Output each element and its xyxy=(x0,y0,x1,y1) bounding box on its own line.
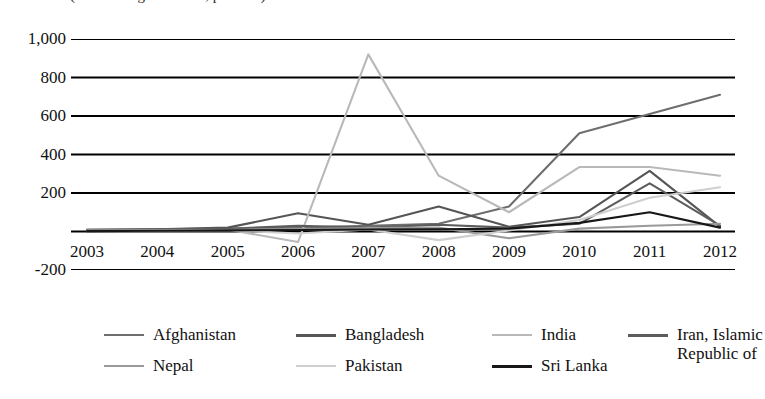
legend-color-swatch xyxy=(296,334,336,337)
legend-label: Sri Lanka xyxy=(541,356,608,375)
chart-title-text: (share in regional total, per cent) xyxy=(70,0,266,4)
x-axis-tick-label: 2009 xyxy=(492,243,526,260)
x-axis-tick-label: 2007 xyxy=(351,243,385,260)
x-axis-tick-label: 2010 xyxy=(562,243,596,260)
legend-item[interactable]: Afghanistan xyxy=(104,325,236,344)
x-axis-tick-label: 2012 xyxy=(703,243,737,260)
x-axis-tick-label: 2008 xyxy=(422,243,456,260)
y-axis-tick-label: 200 xyxy=(41,184,67,201)
x-axis-tick-label: 2003 xyxy=(70,243,104,260)
legend-label: Nepal xyxy=(153,356,194,375)
legend-item[interactable]: Iran, Islamic Republic of xyxy=(628,325,765,363)
legend-label: Iran, Islamic Republic of xyxy=(677,325,765,363)
plot-area xyxy=(71,39,735,270)
chart-title-cropped: (share in regional total, per cent) xyxy=(0,0,765,11)
x-axis-tick-label: 2005 xyxy=(211,243,245,260)
legend-color-swatch xyxy=(492,365,532,368)
series-line xyxy=(87,183,720,230)
legend-color-swatch xyxy=(104,334,144,336)
legend-label: India xyxy=(541,325,576,344)
legend-item[interactable]: Nepal xyxy=(104,356,194,375)
legend-item[interactable]: Bangladesh xyxy=(296,325,424,344)
y-axis-tick-label: 400 xyxy=(41,146,67,163)
series-line xyxy=(87,54,720,242)
series-line xyxy=(87,171,720,230)
x-axis-tick-label: 2011 xyxy=(633,243,666,260)
chart-container: (share in regional total, per cent) 1,00… xyxy=(0,0,765,399)
legend-label: Afghanistan xyxy=(153,325,236,344)
legend-label: Bangladesh xyxy=(345,325,424,344)
legend-color-swatch xyxy=(492,334,532,336)
y-axis-tick-label: 800 xyxy=(41,69,67,86)
legend-color-swatch xyxy=(296,365,336,367)
y-axis-tick-label: 1,000 xyxy=(28,30,66,47)
plot-svg xyxy=(71,39,735,270)
legend-color-swatch xyxy=(628,334,668,337)
chart-legend: AfghanistanBangladeshIndiaIran, Islamic … xyxy=(104,325,759,387)
legend-color-swatch xyxy=(104,365,144,367)
legend-label: Pakistan xyxy=(345,356,403,375)
legend-item[interactable]: Sri Lanka xyxy=(492,356,608,375)
y-axis-tick-label: 600 xyxy=(41,107,67,124)
x-axis-tick-label: 2004 xyxy=(140,243,174,260)
legend-item[interactable]: India xyxy=(492,325,576,344)
x-axis-tick-label: 2006 xyxy=(281,243,315,260)
legend-item[interactable]: Pakistan xyxy=(296,356,403,375)
x-axis-labels: 2003200420052006200720082009201020112012 xyxy=(0,243,765,267)
series-lines xyxy=(87,54,720,242)
